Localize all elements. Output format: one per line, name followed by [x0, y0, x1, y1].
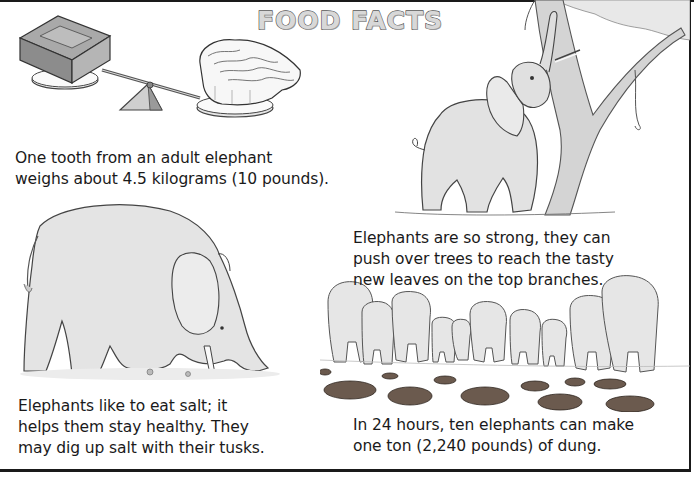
caption-line: one ton (2,240 pounds) of dung. [353, 436, 634, 457]
fact-caption-strength: Elephants are so strong, they can push o… [353, 228, 614, 291]
caption-line: helps them stay healthy. They [18, 417, 265, 438]
food-facts-page: FOOD FACTS [0, 0, 694, 477]
balance-scale-illustration [10, 8, 310, 123]
caption-line: push over trees to reach the tasty [353, 249, 614, 270]
caption-line: In 24 hours, ten elephants can make [353, 415, 634, 436]
bottom-border-rule [0, 469, 691, 472]
elephant-pushing-tree-illustration [385, 0, 690, 220]
caption-line: One tooth from an adult elephant [15, 148, 329, 169]
caption-line: Elephants like to eat salt; it [18, 396, 265, 417]
caption-line: weighs about 4.5 kilograms (10 pounds). [15, 169, 329, 190]
caption-line: Elephants are so strong, they can [353, 228, 614, 249]
fact-caption-dung: In 24 hours, ten elephants can make one … [353, 415, 634, 457]
caption-line: may dig up salt with their tusks. [18, 438, 265, 459]
fact-caption-tooth: One tooth from an adult elephant weighs … [15, 148, 329, 190]
fact-caption-salt: Elephants like to eat salt; it helps the… [18, 396, 265, 459]
caption-line: new leaves on the top branches. [353, 270, 614, 291]
elephant-digging-salt-illustration [10, 196, 300, 386]
elephant-herd-dung-illustration [320, 272, 690, 412]
